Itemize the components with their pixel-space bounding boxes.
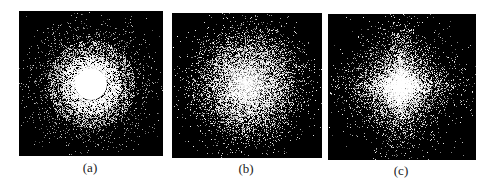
caption-c: (c)	[381, 163, 421, 179]
caption-a: (a)	[70, 160, 110, 176]
scatter-canvas-b	[172, 13, 322, 158]
scatter-canvas-a	[19, 11, 163, 156]
panel-b-scatter-gaussian	[172, 13, 322, 158]
caption-b: (b)	[226, 161, 266, 177]
scatter-canvas-c	[328, 14, 476, 160]
panel-a-scatter-rings	[19, 11, 163, 156]
panel-c-scatter-diamond	[328, 14, 476, 160]
